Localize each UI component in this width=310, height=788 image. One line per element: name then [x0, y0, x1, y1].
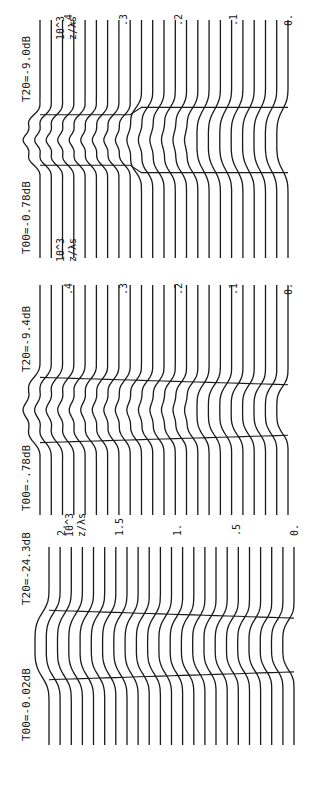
- field-profile-curve: [265, 285, 276, 515]
- axis-tick-label: 0.: [289, 524, 300, 536]
- axis-tick-label: .4: [63, 283, 74, 295]
- axis-tick-label: .5: [231, 524, 242, 536]
- axis-tick-label: .3: [118, 283, 129, 295]
- field-profile-curve: [272, 547, 283, 745]
- field-profile-curve: [197, 285, 209, 515]
- axis-scale-label: 10^3: [55, 238, 66, 262]
- field-profile-curve: [58, 285, 74, 515]
- panel-3: T00=-0.78dBT20=-9.0dB.4.3.2.10.10^3z/λs: [20, 14, 294, 258]
- field-profile-curve: [46, 20, 62, 258]
- field-profile-curve: [115, 20, 130, 258]
- axis-title: z/λs: [67, 238, 78, 262]
- field-profile-curve: [204, 547, 216, 745]
- axis-tick-label: 0.: [283, 14, 294, 26]
- field-profile-curve: [254, 285, 266, 515]
- field-profile-curve: [92, 20, 107, 258]
- axis-tick-label: 1.5: [114, 518, 125, 536]
- field-profile-curve: [238, 547, 250, 745]
- axis-tick-label: .2: [173, 14, 184, 26]
- field-profile-curve: [277, 285, 288, 515]
- field-profile-curve: [220, 20, 232, 258]
- field-profile-curve: [35, 285, 52, 515]
- field-profile-curve: [208, 285, 220, 515]
- field-profile-curve: [254, 20, 266, 258]
- field-profile-curve: [227, 547, 239, 745]
- t20-label: T20=-9.4dB: [20, 305, 33, 372]
- field-profile-curve: [249, 547, 261, 745]
- field-profile-curve: [208, 20, 220, 258]
- t20-label: T20=-24.3dB: [20, 532, 33, 605]
- field-profile-curve: [46, 285, 62, 515]
- field-profile-curve: [243, 285, 255, 515]
- t20-label: T20=-9.0dB: [20, 35, 33, 102]
- field-profile-curve: [115, 285, 130, 515]
- field-profile-curve: [215, 547, 227, 745]
- field-profile-curve: [220, 285, 232, 515]
- field-profile-curve: [265, 20, 276, 258]
- field-profile-curve: [92, 285, 107, 515]
- field-profile-curve: [260, 547, 271, 745]
- waterfall-figure: T00=-0.78dBT20=-9.0dB.4.3.2.10.10^3z/λs …: [0, 0, 310, 788]
- field-profile-curve: [81, 20, 97, 258]
- field-profile-curve: [231, 20, 243, 258]
- field-profile-curve: [243, 20, 255, 258]
- field-profile-curve: [35, 20, 52, 258]
- axis-tick-label: 0.: [283, 283, 294, 295]
- field-profile-curve: [139, 285, 153, 515]
- axis-tick-label: .1: [228, 283, 239, 295]
- axis-title: z/λs: [76, 513, 87, 537]
- field-profile-curve: [69, 20, 85, 258]
- t00-label: T00=-0.78dB: [20, 181, 33, 254]
- field-profile-curve: [127, 20, 142, 258]
- axis-tick-label: .1: [228, 14, 239, 26]
- axis-scale-label: 10^3: [55, 16, 66, 40]
- axis-tick-label: .3: [118, 14, 129, 26]
- field-profile-curve: [283, 547, 294, 745]
- panel-2: T00=-.78dBT20=-9.4dB.4.3.2.10.10^3z/λs: [20, 238, 294, 515]
- field-profile-curve: [58, 20, 74, 258]
- axis-scale-label: 10^3: [64, 513, 75, 537]
- axis-tick-label: .2: [173, 283, 184, 295]
- field-profile-curve: [104, 285, 119, 515]
- axis-tick-label: 1.: [172, 524, 183, 536]
- panel-1: T00=-0.02dBT20=-24.3dB2.1.51..50.10^3z/λ…: [20, 513, 300, 745]
- field-profile-curve: [277, 20, 288, 258]
- field-profile-curve: [104, 20, 119, 258]
- field-profile-curve: [81, 285, 97, 515]
- field-profile-curve: [193, 547, 205, 745]
- field-profile-curve: [181, 547, 193, 745]
- field-profile-curve: [197, 20, 209, 258]
- core-boundary-line: [40, 107, 288, 114]
- t00-label: T00=-0.02dB: [20, 668, 33, 741]
- core-boundary-line: [40, 165, 288, 172]
- axis-title: z/λs: [67, 16, 78, 40]
- t00-label: T00=-.78dB: [20, 444, 33, 511]
- field-profile-curve: [69, 285, 85, 515]
- field-profile-curve: [127, 285, 142, 515]
- field-profile-curve: [231, 285, 243, 515]
